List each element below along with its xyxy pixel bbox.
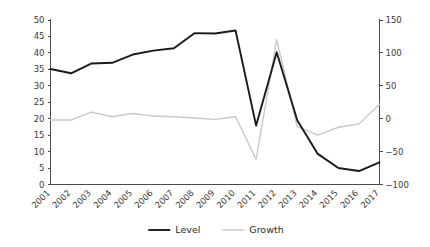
line-chart: 05101520253035404550 −100−50050100150 20… — [0, 0, 430, 247]
svg-text:2001: 2001 — [30, 188, 52, 210]
right-axis-tick-labels: −100−50050100150 — [386, 15, 409, 190]
svg-text:2007: 2007 — [153, 188, 175, 210]
right-axis: −100−50050100150 — [380, 15, 409, 190]
svg-text:100: 100 — [386, 48, 402, 58]
svg-text:2006: 2006 — [132, 188, 154, 210]
svg-text:15: 15 — [34, 130, 45, 140]
svg-text:5: 5 — [39, 163, 44, 173]
chart-canvas: 05101520253035404550 −100−50050100150 20… — [0, 0, 430, 247]
svg-text:−50: −50 — [386, 147, 404, 157]
svg-text:2014: 2014 — [297, 188, 319, 210]
svg-text:2016: 2016 — [338, 188, 360, 210]
svg-text:40: 40 — [34, 48, 45, 58]
svg-text:2008: 2008 — [173, 188, 195, 210]
svg-text:45: 45 — [34, 31, 45, 41]
svg-text:2009: 2009 — [194, 188, 216, 210]
svg-text:50: 50 — [34, 15, 45, 25]
svg-text:2011: 2011 — [235, 188, 257, 210]
left-axis-tick-labels: 05101520253035404550 — [34, 15, 45, 190]
svg-text:−100: −100 — [386, 180, 409, 190]
series-group — [51, 31, 380, 171]
series-line-growth — [51, 40, 380, 160]
svg-text:2012: 2012 — [256, 188, 278, 210]
svg-text:30: 30 — [34, 81, 45, 91]
svg-text:2003: 2003 — [71, 188, 93, 210]
svg-text:2005: 2005 — [112, 188, 134, 210]
series-line-level — [51, 31, 380, 171]
bottom-axis: 2001200220032004200520062007200820092010… — [30, 185, 381, 211]
legend-label-level: Level — [175, 224, 200, 235]
svg-text:150: 150 — [386, 15, 402, 25]
svg-text:20: 20 — [34, 114, 45, 124]
svg-text:35: 35 — [34, 64, 45, 74]
svg-text:2013: 2013 — [276, 188, 298, 210]
svg-text:50: 50 — [386, 81, 397, 91]
legend-label-growth: Growth — [249, 224, 283, 235]
svg-text:10: 10 — [34, 147, 45, 157]
svg-text:2010: 2010 — [215, 188, 237, 210]
svg-text:2002: 2002 — [50, 188, 72, 210]
svg-text:25: 25 — [34, 97, 45, 107]
left-axis: 05101520253035404550 — [34, 15, 51, 190]
svg-text:2017: 2017 — [359, 188, 381, 210]
x-axis-tick-labels: 2001200220032004200520062007200820092010… — [30, 188, 381, 210]
chart-legend: Level Growth — [148, 224, 283, 235]
svg-text:2004: 2004 — [91, 188, 113, 210]
svg-text:2015: 2015 — [317, 188, 339, 210]
svg-text:0: 0 — [386, 114, 391, 124]
